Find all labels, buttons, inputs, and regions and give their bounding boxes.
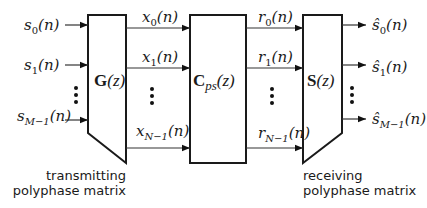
x-ellipsis-icon: [150, 87, 154, 105]
transmitter-caption-line2: polyphase matrix: [13, 183, 127, 198]
receiver-block-label: S(z): [307, 71, 335, 90]
input-label-m-1: sM−1(n): [17, 107, 71, 127]
receiver-caption-line2: polyphase matrix: [303, 183, 417, 198]
r-label-1: r1(n): [258, 48, 293, 68]
output-label-0: ŝ0(n): [372, 16, 408, 36]
x-label-1: x1(n): [142, 48, 178, 68]
r-ellipsis-icon: [270, 87, 274, 105]
output-label-m-1: ŝM−1(n): [372, 110, 426, 130]
r-label-0: r0(n): [258, 8, 293, 28]
transmitter-caption-line1: transmitting: [46, 168, 126, 183]
output-label-1: ŝ1(n): [372, 58, 408, 78]
output-ellipsis-icon: [350, 86, 354, 104]
receiver-caption-line1: receiving: [303, 168, 363, 183]
filter-bank-diagram: G(z) Cps(z) S(z) s0(n) s1(n) sM−1(n) x0(…: [0, 0, 427, 208]
input-ellipsis-icon: [74, 86, 78, 104]
r-label-n-1: rN−1(n): [258, 124, 310, 144]
x-label-0: x0(n): [142, 8, 178, 28]
input-label-1: s1(n): [24, 56, 60, 76]
x-label-n-1: xN−1(n): [136, 122, 189, 142]
transmitter-block-label: G(z): [94, 71, 126, 90]
input-label-0: s0(n): [24, 16, 60, 36]
